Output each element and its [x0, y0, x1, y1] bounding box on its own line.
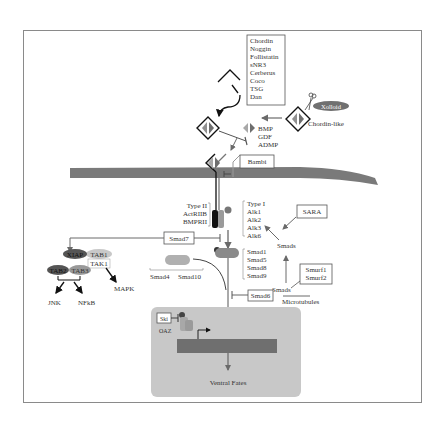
- antagonist-list: Chordin Noggin Follistatin sNR3 Cerberus…: [247, 35, 285, 105]
- tab1-label: TAB1: [91, 251, 108, 259]
- type2-label: Type II: [187, 202, 208, 210]
- antagonist-item: TSG: [250, 85, 263, 93]
- tab3-label: TAB3: [72, 267, 89, 275]
- antagonist-item: sNR3: [250, 61, 266, 69]
- antagonist-item: Chordin: [250, 37, 273, 45]
- antagonist-item: Follistatin: [250, 53, 279, 61]
- oaz-label: OAZ: [159, 328, 172, 334]
- ski-label: Ski: [160, 316, 168, 322]
- xiap-label: XIAP: [67, 251, 83, 259]
- type1-label: Alk2: [247, 216, 262, 224]
- cosmad-protein: [165, 255, 190, 265]
- bambi-label: Bambi: [248, 158, 267, 166]
- bmp-pathway-diagram: Chordin Noggin Follistatin sNR3 Cerberus…: [0, 0, 443, 424]
- mapk-label: MAPK: [114, 285, 134, 293]
- type1-label: Alk6: [247, 232, 262, 240]
- smurf-label: Smurf2: [306, 274, 328, 282]
- ventral-fates-label: Ventral Fates: [210, 379, 247, 387]
- type2-label: ActRIIB: [183, 210, 207, 218]
- smad7-label: Smad7: [169, 235, 189, 243]
- rsmad-label: Smad5: [247, 256, 267, 264]
- nfkb-label: NFkB: [78, 299, 95, 307]
- tab2-label: TAB2: [50, 267, 67, 275]
- oaz-complex-2: [185, 320, 193, 331]
- rsmad-label: Smad1: [247, 248, 267, 256]
- antagonist-item: Cerberus: [250, 69, 276, 77]
- sara-label: SARA: [303, 208, 322, 216]
- smad6-label: Smad6: [251, 292, 271, 300]
- tak1-label: TAK1: [90, 260, 108, 268]
- rsmad-label: Smad9: [247, 272, 267, 280]
- ligand-label: ADMP: [258, 141, 278, 149]
- type2-kinase: [212, 210, 218, 228]
- smads-top-label: Smads: [277, 242, 296, 250]
- smads-bottom-label: Smads: [272, 286, 291, 294]
- type1-label: Type I: [247, 200, 266, 208]
- smurf-label: Smurf1: [306, 266, 328, 274]
- antagonist-item: Noggin: [250, 45, 272, 53]
- rsmad-label: Smad8: [247, 264, 267, 272]
- type1-label: Alk1: [247, 208, 262, 216]
- cosmad-label: Smad4: [150, 273, 170, 281]
- jnk-label: JNK: [48, 299, 61, 307]
- antagonist-item: Coco: [250, 77, 265, 85]
- rsmad-protein: [215, 248, 239, 258]
- type2-label: BMPRII: [183, 218, 208, 226]
- microtubules-label: Microtubules: [282, 298, 320, 306]
- type1-label: Alk3: [247, 224, 262, 232]
- dna: [177, 339, 277, 353]
- phospho-dot: [225, 207, 232, 214]
- antagonist-item: Dan: [250, 93, 262, 101]
- ligand-label: BMP: [258, 125, 273, 133]
- type1-kinase: [218, 210, 224, 228]
- cosmad-label: Smad10: [178, 273, 201, 281]
- chordin-like-label: Chordin-like: [308, 120, 344, 128]
- xolloid-label: Xolloid: [321, 103, 342, 110]
- ligand-label: GDF: [258, 133, 272, 141]
